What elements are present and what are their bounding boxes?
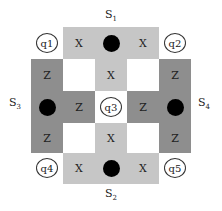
- qubit-q4: q4: [36, 158, 58, 178]
- ancilla-dot-icon: [167, 99, 184, 116]
- center-x-cell-top: X: [95, 59, 127, 91]
- x-operator: X: [75, 37, 83, 50]
- x-operator: X: [139, 37, 147, 50]
- qubit-q5: q5: [164, 158, 186, 178]
- s1-ancilla-cell: [95, 27, 127, 59]
- z-operator: Z: [171, 69, 179, 82]
- x-operator: X: [75, 162, 83, 175]
- qubit-q3: q3: [100, 97, 122, 117]
- ancilla-dot-icon: [103, 35, 120, 52]
- ancilla-dot-icon: [103, 160, 120, 177]
- s4-ancilla-cell: [159, 91, 191, 123]
- center-z-cell-right: Z: [127, 91, 159, 123]
- z-operator: Z: [75, 101, 83, 114]
- z-operator: Z: [171, 132, 179, 145]
- s1-x-cell-left: X: [63, 27, 95, 59]
- z-operator: Z: [139, 101, 147, 114]
- s3-ancilla-cell: [31, 91, 63, 123]
- s4-z-cell-top: Z: [159, 59, 191, 91]
- stabilizer-label-s1: S1: [105, 8, 117, 23]
- s3-z-cell-top: Z: [31, 59, 63, 91]
- qubit-q1: q1: [36, 33, 58, 53]
- z-operator: Z: [43, 69, 51, 82]
- x-operator: X: [139, 162, 147, 175]
- stabilizer-label-s2: S2: [105, 187, 117, 202]
- qubit-q2: q2: [164, 33, 186, 53]
- center-z-cell-left: Z: [63, 91, 95, 123]
- x-operator: X: [107, 132, 115, 145]
- ancilla-dot-icon: [39, 99, 56, 116]
- z-operator: Z: [43, 132, 51, 145]
- s2-ancilla-cell: [95, 153, 127, 184]
- center-x-cell-bottom: X: [95, 123, 127, 153]
- s1-x-cell-right: X: [127, 27, 159, 59]
- s2-x-cell-right: X: [127, 153, 159, 184]
- s2-x-cell-left: X: [63, 153, 95, 184]
- s3-z-cell-bottom: Z: [31, 123, 63, 153]
- s4-z-cell-bottom: Z: [159, 123, 191, 153]
- x-operator: X: [107, 69, 115, 82]
- stabilizer-label-s4: S4: [198, 96, 210, 111]
- stabilizer-label-s3: S3: [9, 96, 21, 111]
